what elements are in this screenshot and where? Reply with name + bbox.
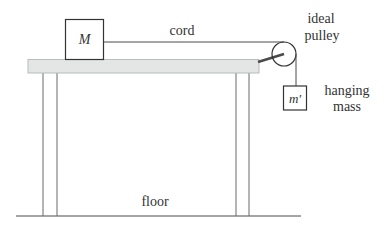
hanging-block-label: m' [289,91,301,106]
pulley-label-line1: ideal [307,11,334,26]
floor-label: floor [141,194,169,209]
table-top [28,60,259,74]
hanging-label-line1: hanging [324,83,369,98]
hanging-label-line2: mass [333,99,361,114]
table-leg-left [43,73,57,216]
table-leg-right [236,73,249,216]
pulley-diagram: M cord m' ideal pulley hanging mass floo… [0,0,385,227]
block-m-label: M [78,32,92,47]
pulley-bracket [258,54,284,62]
pulley-label-line2: pulley [305,28,340,43]
cord-label: cord [170,23,195,38]
